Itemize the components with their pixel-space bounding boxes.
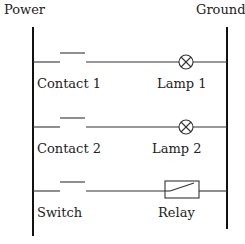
- rung-3: Switch Relay: [33, 181, 227, 220]
- contact-2-label: Contact 2: [37, 141, 101, 156]
- contact-1-label: Contact 1: [37, 76, 101, 91]
- lamp-1-label: Lamp 1: [157, 76, 206, 91]
- rung-1: Contact 1 Lamp 1: [33, 53, 227, 91]
- rung-2: Contact 2 Lamp 2: [33, 118, 227, 156]
- power-rail-label: Power: [4, 2, 46, 17]
- switch-label: Switch: [37, 205, 83, 220]
- relay-coil-symbol[interactable]: [165, 181, 199, 198]
- ladder-diagram: Power Ground Contact 1 Lamp 1 Con: [0, 0, 245, 244]
- ground-rail-label: Ground: [196, 2, 245, 17]
- lamp-1-symbol[interactable]: [179, 55, 193, 69]
- relay-label: Relay: [158, 205, 195, 220]
- lamp-2-label: Lamp 2: [152, 141, 201, 156]
- lamp-2-symbol[interactable]: [179, 120, 193, 134]
